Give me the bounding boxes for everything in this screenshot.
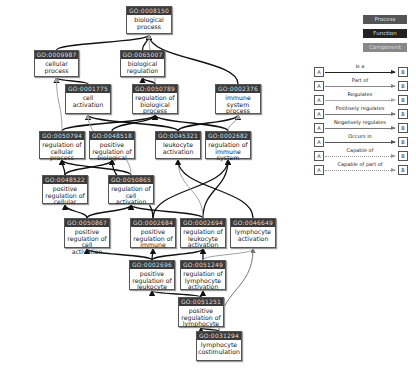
relation-edge [87,205,131,218]
go-term-node[interactable]: GO:0002682regulation of immune system [205,131,251,159]
legend-relation-label: Capable of part of [326,161,394,167]
legend-box-a: A [314,95,324,105]
legend-relation-line [325,170,395,171]
legend-box-a: A [314,151,324,161]
go-term-node[interactable]: GO:0048518positive regulation of biologi… [89,131,135,159]
go-term-label: positive regulation of cellular [43,184,87,207]
legend-relation-label: Negatively regulates [326,119,394,125]
relation-edge [203,249,253,260]
go-term-label: leukocyte activation [156,140,200,156]
go-term-node[interactable]: GO:0002694regulation of leukocyte activa… [180,218,226,248]
go-term-node[interactable]: GO:0002376immune system process [215,84,261,114]
go-term-label: regulation of cellular process [40,140,84,163]
go-term-label: biological process [127,15,171,31]
go-term-id: GO:0031294 [197,332,241,340]
go-term-label: positive regulation of immune [131,227,175,250]
go-term-node[interactable]: GO:0065007biological regulation [120,50,165,77]
arrowhead-icon [391,140,396,144]
go-term-node[interactable]: GO:0050867positive regulation of cell ac… [64,218,110,248]
go-term-id: GO:0002376 [216,85,260,93]
go-term-id: GO:0002696 [130,261,174,269]
go-term-id: GO:0002684 [131,219,175,227]
legend-category-component: Component [363,43,407,52]
go-term-id: GO:0001775 [66,85,110,93]
legend-box-b: B [398,95,408,105]
go-term-id: GO:0050865 [109,176,153,184]
legend-box-a: A [314,109,324,119]
relation-edge [178,160,203,218]
go-term-id: GO:0050789 [133,85,177,93]
legend-box-a: A [314,137,324,147]
go-term-id: GO:0045321 [156,132,200,140]
go-term-label: regulation of lymphocyte activation [181,269,225,292]
go-term-id: GO:0051251 [179,298,223,306]
go-term-label: cellular process [35,59,78,75]
legend-relation-line [325,72,395,73]
go-term-label: cell activation [66,93,110,109]
go-term-node[interactable]: GO:0051249regulation of lymphocyte activ… [180,260,226,290]
legend-relation-line [325,100,395,101]
legend-relation-line [325,128,395,129]
legend-box-b: B [398,151,408,161]
go-term-node[interactable]: GO:0002696positive regulation of leukocy… [129,260,175,290]
go-term-id: GO:0050794 [40,132,84,140]
legend-relation-label: Part of [326,77,394,83]
go-term-node[interactable]: GO:0046649lymphocyte activation [230,218,276,248]
legend-box-b: B [398,81,408,91]
arrowhead-icon [391,126,396,130]
go-term-id: GO:0002694 [181,219,225,227]
legend-relation-line [325,156,395,157]
legend-category-process: Process [363,15,407,24]
legend-category-function: Function [363,29,407,38]
relation-edge [57,35,150,50]
go-term-node[interactable]: GO:0045321leukocyte activation [155,131,201,159]
arrowhead-icon [391,154,396,158]
legend-box-a: A [314,67,324,77]
arrowhead-icon [391,84,396,88]
legend-relation-label: Capable of [326,147,394,153]
relation-edge [62,115,155,131]
legend-box-b: B [398,67,408,77]
go-term-id: GO:0046649 [231,219,275,227]
legend-relation-label: Is a [326,63,394,69]
legend-relation-line [325,142,395,143]
go-term-node[interactable]: GO:0050789regulation of biological proce… [132,84,178,114]
arrowhead-icon [391,70,396,74]
go-term-node[interactable]: GO:0051251positive regulation of lymphoc… [178,297,224,327]
go-term-id: GO:0002682 [206,132,250,140]
legend-box-a: A [314,123,324,133]
relation-edge [155,115,228,131]
go-term-label: regulation of cell activation [109,184,153,207]
go-term-node[interactable]: GO:0031294lymphocyte costimulation [196,331,242,361]
legend-relation-row: ACapable of part ofB [314,165,408,176]
arrowhead-icon [391,98,396,102]
go-term-label: positive regulation of leukocyte [130,269,174,292]
go-term-id: GO:0048522 [43,176,87,184]
legend-box-a: A [314,165,324,175]
legend-relation-label: Regulates [326,91,394,97]
go-term-label: lymphocyte costimulation [197,340,241,356]
go-term-label: immune system process [216,93,260,116]
go-term-id: GO:0065007 [121,51,164,59]
relation-edge [152,249,203,260]
go-term-node[interactable]: GO:0050794regulation of cellular process [39,131,85,159]
go-term-label: biological regulation [121,59,164,75]
go-term-node[interactable]: GO:0002684positive regulation of immune [130,218,176,248]
go-term-id: GO:0050867 [65,219,109,227]
relation-edge [57,78,63,131]
legend-box-b: B [398,109,408,119]
go-term-node[interactable]: GO:0009987cellular process [34,50,79,77]
legend-box-b: B [398,137,408,147]
legend-relation-label: Occurs in [326,133,394,139]
relation-edge [131,205,203,218]
go-term-node[interactable]: GO:0001775cell activation [65,84,111,114]
go-term-label: regulation of immune system [206,140,250,163]
legend-relation-label: Positively regulates [326,105,394,111]
go-term-node[interactable]: GO:0048522positive regulation of cellula… [42,175,88,204]
go-term-id: GO:0008150 [127,7,171,15]
go-term-label: lymphocyte activation [231,227,275,243]
legend-box-b: B [398,123,408,133]
go-term-node[interactable]: GO:0008150biological process [126,6,172,34]
arrowhead-icon [391,112,396,116]
go-term-node[interactable]: GO:0050865regulation of cell activation [108,175,154,204]
